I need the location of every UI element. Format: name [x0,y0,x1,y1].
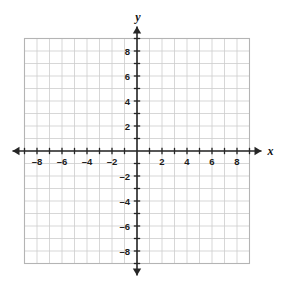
y-axis-tick-label: –2 [119,171,130,182]
figure-background [0,0,283,291]
y-axis-tick-label: –8 [119,246,130,257]
x-axis-tick-label: –2 [107,156,118,167]
x-axis-tick-label: –6 [57,156,68,167]
y-axis-tick-label: 2 [125,121,130,132]
y-axis-tick-label: 6 [125,71,130,82]
x-axis-tick-label: –4 [82,156,93,167]
x-axis-tick-label: –8 [32,156,43,167]
coordinate-plane-svg: –8–6–4–224688642–2–4–6–8xy [0,0,283,291]
y-axis-tick-label: –4 [119,196,130,207]
y-axis-tick-label: 4 [125,96,131,107]
coordinate-plane-figure: –8–6–4–224688642–2–4–6–8xy [0,0,283,291]
x-axis-tick-label: 6 [209,156,214,167]
x-axis-tick-label: 8 [234,156,239,167]
x-axis-tick-label: 4 [184,156,190,167]
y-axis-name-label: y [133,10,141,24]
y-axis-tick-label: –6 [119,221,130,232]
y-axis-tick-label: 8 [125,46,130,57]
x-axis-name-label: x [267,144,274,158]
x-axis-tick-label: 2 [159,156,164,167]
